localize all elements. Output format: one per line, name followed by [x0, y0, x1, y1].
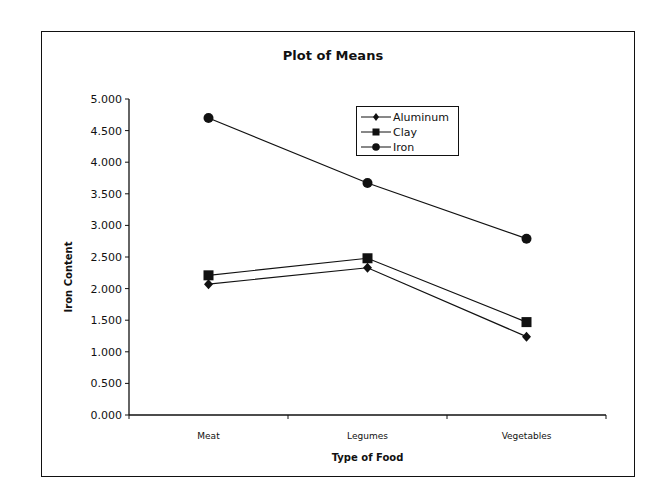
data-point	[522, 317, 532, 327]
y-tick-label: 2.000	[91, 283, 123, 296]
legend-item-aluminum: Aluminum	[359, 109, 449, 125]
x-tick-label: Legumes	[347, 431, 388, 441]
series-line-aluminum	[209, 268, 527, 337]
x-tick-label: Vegetables	[502, 431, 552, 441]
data-point	[522, 234, 532, 244]
plot-area: 0.0000.5001.0001.5002.0002.5003.0003.500…	[0, 0, 666, 499]
legend: Aluminum Clay Iron	[356, 106, 459, 156]
x-tick-label: Meat	[197, 431, 220, 441]
legend-label: Aluminum	[393, 111, 449, 124]
legend-label: Clay	[393, 126, 417, 139]
y-tick-label: 4.000	[91, 156, 123, 169]
data-point	[522, 332, 531, 342]
y-tick-label: 3.000	[91, 219, 123, 232]
circle-marker-icon	[359, 140, 393, 154]
y-tick-label: 3.500	[91, 188, 123, 201]
y-tick-label: 4.500	[91, 125, 123, 138]
diamond-marker-icon	[359, 110, 393, 124]
legend-label: Iron	[393, 141, 414, 154]
x-axis-label: Type of Food	[332, 452, 404, 463]
data-point	[204, 270, 214, 280]
square-marker-icon	[359, 125, 393, 139]
data-point	[363, 263, 372, 273]
y-tick-label: 5.000	[91, 93, 123, 106]
y-tick-label: 1.500	[91, 314, 123, 327]
y-tick-label: 0.000	[91, 409, 123, 422]
data-point	[204, 279, 213, 289]
y-tick-label: 0.500	[91, 377, 123, 390]
data-point	[363, 253, 373, 263]
legend-item-clay: Clay	[359, 124, 417, 140]
y-tick-label: 1.000	[91, 346, 123, 359]
legend-item-iron: Iron	[359, 139, 414, 155]
data-point	[363, 178, 373, 188]
data-point	[204, 113, 214, 123]
y-tick-label: 2.500	[91, 251, 123, 264]
y-axis-label: Iron Content	[63, 241, 74, 312]
